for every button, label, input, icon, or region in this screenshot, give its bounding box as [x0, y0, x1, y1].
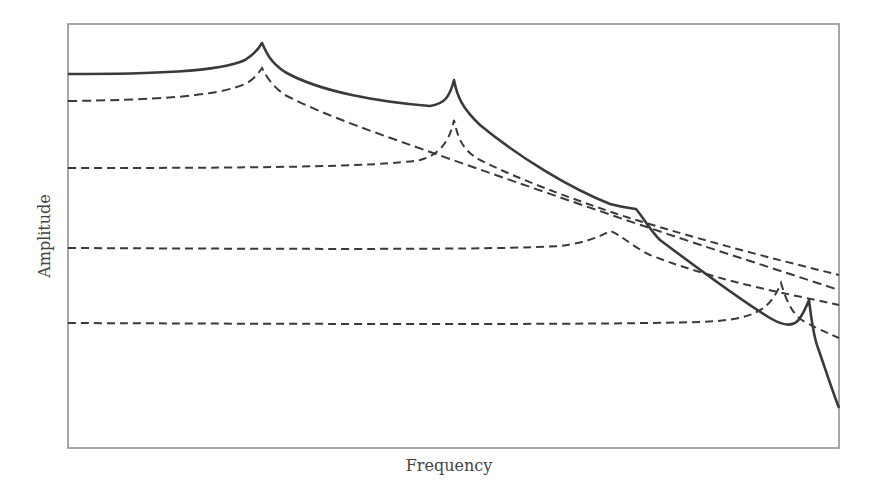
mode-1-dashed-curve [68, 68, 839, 290]
plot-frame [68, 24, 839, 448]
total-response-solid-curve [68, 43, 839, 408]
mode-4-dashed-curve [68, 283, 839, 338]
frequency-response-plot [0, 0, 876, 497]
mode-3-dashed-curve [68, 231, 839, 305]
x-axis-label: Frequency [406, 456, 493, 475]
y-axis-label: Amplitude [35, 194, 54, 278]
